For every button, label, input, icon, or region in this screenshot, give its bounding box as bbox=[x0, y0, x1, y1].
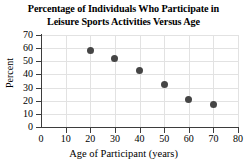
data-point bbox=[210, 101, 217, 108]
x-axis-tick-label: 20 bbox=[77, 134, 103, 144]
chart-title-line-2: Leisure Sports Activities Versus Age bbox=[0, 16, 247, 29]
gridline-vertical bbox=[66, 35, 67, 127]
y-axis-tick bbox=[36, 61, 41, 62]
y-axis-label: Percent bbox=[5, 45, 15, 101]
x-axis-tick-label: 40 bbox=[127, 134, 153, 144]
gridline-vertical bbox=[140, 35, 141, 127]
gridline-vertical bbox=[115, 35, 116, 127]
y-axis-tick-label: 10 bbox=[3, 109, 33, 119]
x-axis-tick-label: 30 bbox=[102, 134, 128, 144]
y-axis-tick bbox=[36, 114, 41, 115]
x-axis-tick-label: 0 bbox=[28, 134, 54, 144]
y-axis-tick bbox=[36, 48, 41, 49]
x-axis-tick-label: 10 bbox=[53, 134, 79, 144]
y-axis-tick bbox=[36, 35, 41, 36]
chart-title-line-1: Percentage of Individuals Who Participat… bbox=[0, 3, 247, 16]
gridline-vertical bbox=[189, 35, 190, 127]
y-axis-tick bbox=[36, 127, 41, 128]
data-point bbox=[185, 96, 192, 103]
gridline-vertical bbox=[238, 35, 239, 127]
y-axis-tick bbox=[36, 101, 41, 102]
x-axis-tick-label: 80 bbox=[225, 134, 247, 144]
gridline-vertical bbox=[213, 35, 214, 127]
x-axis-tick-label: 70 bbox=[200, 134, 226, 144]
y-axis-tick-label: 70 bbox=[3, 30, 33, 40]
scatter-chart: Percentage of Individuals Who Participat… bbox=[0, 0, 247, 168]
y-axis-line bbox=[41, 34, 42, 128]
data-point bbox=[136, 67, 143, 74]
y-axis-tick bbox=[36, 88, 41, 89]
x-axis-label: Age of Participant (years) bbox=[0, 148, 247, 159]
y-axis-tick bbox=[36, 74, 41, 75]
x-axis-tick-label: 60 bbox=[176, 134, 202, 144]
plot-area bbox=[41, 35, 238, 127]
chart-title: Percentage of Individuals Who Participat… bbox=[0, 3, 247, 28]
y-axis-tick-label: 0 bbox=[3, 122, 33, 132]
x-axis-tick-label: 50 bbox=[151, 134, 177, 144]
data-point bbox=[87, 47, 94, 54]
